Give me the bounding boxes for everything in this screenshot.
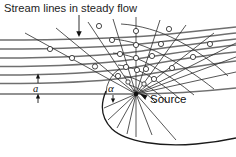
figure-title: Stream lines in steady flow bbox=[4, 2, 138, 14]
title-pointer-arrow bbox=[76, 15, 81, 37]
flow-diagram-figure: Stream lines in steady flow bbox=[0, 0, 236, 157]
spacing-dimension: a bbox=[33, 74, 40, 104]
spacing-label: a bbox=[33, 83, 38, 94]
angle-label: α bbox=[108, 82, 114, 94]
source-label: Source bbox=[150, 93, 186, 105]
source-point bbox=[134, 92, 138, 96]
ray-group bbox=[25, 17, 236, 140]
diagram-svg: Stream lines in steady flow bbox=[0, 0, 236, 157]
